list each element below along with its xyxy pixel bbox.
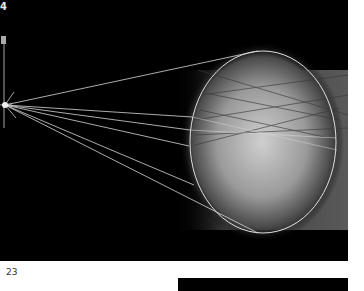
source-point [2,102,8,108]
next-figure-top-edge [178,278,348,291]
source-marker [0,40,16,128]
axis-marker [1,36,6,44]
page-number: 23 [6,267,17,277]
ray-ellipse-figure: 4 [0,0,348,261]
figure-canvas [0,0,348,261]
figure-corner-label: 4 [0,1,7,13]
